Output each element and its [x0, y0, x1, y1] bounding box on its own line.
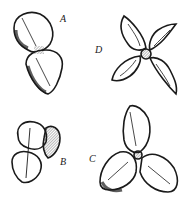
figure-b-label: B	[60, 157, 66, 167]
figure-d-label: D	[95, 45, 102, 55]
figure-c	[100, 106, 177, 192]
figure-b	[12, 122, 60, 183]
illustration-svg	[0, 0, 191, 198]
engraving-plate: A D B C	[0, 0, 191, 198]
figure-a-label: A	[60, 14, 66, 24]
figure-a	[14, 13, 62, 94]
figure-c-label: C	[89, 154, 96, 164]
figure-d	[112, 16, 177, 94]
